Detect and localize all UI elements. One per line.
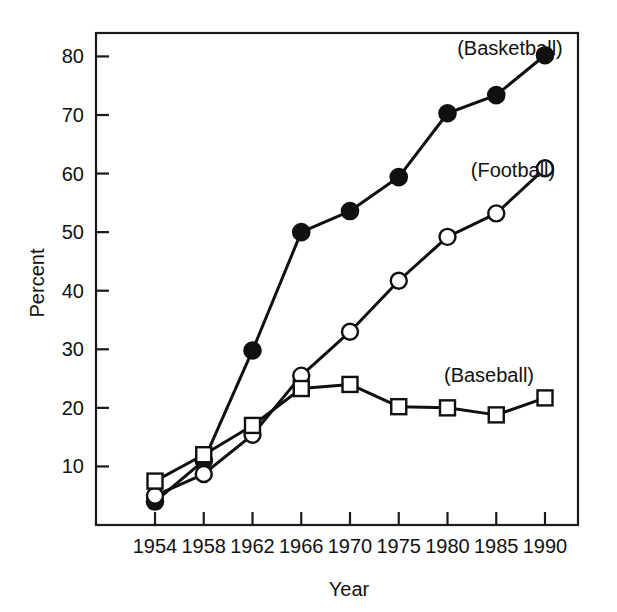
data-point-baseball-1990 [538, 390, 553, 405]
data-point-football-1985 [488, 205, 504, 221]
chart-figure: 1020304050607080 19541958196219661970197… [0, 0, 617, 612]
data-point-football-1970 [342, 324, 358, 340]
data-point-baseball-1985 [489, 407, 504, 422]
line-chart-svg: 1020304050607080 19541958196219661970197… [0, 0, 617, 612]
y-tick-label-80: 80 [62, 45, 84, 67]
x-axis-ticks [155, 512, 545, 525]
x-tick-label-1980: 1980 [425, 535, 470, 557]
x-tick-label-1966: 1966 [279, 535, 324, 557]
series-annotation-basketball: (Basketball) [457, 37, 563, 59]
y-tick-label-10: 10 [62, 455, 84, 477]
data-point-football-1980 [440, 229, 456, 245]
x-tick-label-1990: 1990 [523, 535, 568, 557]
x-tick-label-1958: 1958 [182, 535, 227, 557]
data-point-basketball-1975 [390, 169, 407, 186]
data-point-baseball-1954 [148, 474, 163, 489]
y-axis-tick-labels: 1020304050607080 [62, 45, 84, 477]
series-lines-group [155, 55, 545, 501]
data-point-football-1958 [196, 466, 212, 482]
y-tick-label-30: 30 [62, 338, 84, 360]
y-axis-ticks [96, 56, 109, 466]
plot-frame [96, 33, 578, 525]
series-line-basketball [155, 55, 545, 501]
data-point-football-1954 [147, 488, 163, 504]
x-tick-label-1962: 1962 [230, 535, 275, 557]
x-tick-label-1954: 1954 [133, 535, 178, 557]
data-point-baseball-1970 [343, 377, 358, 392]
x-axis-tick-labels: 195419581962196619701975198019851990 [133, 535, 568, 557]
x-axis-title: Year [329, 578, 370, 600]
data-point-baseball-1958 [196, 447, 211, 462]
data-point-basketball-1966 [293, 224, 310, 241]
x-tick-label-1985: 1985 [474, 535, 519, 557]
series-annotation-baseball: (Baseball) [444, 364, 534, 386]
x-tick-label-1970: 1970 [328, 535, 373, 557]
data-point-baseball-1975 [391, 399, 406, 414]
data-point-baseball-1966 [294, 381, 309, 396]
y-tick-label-70: 70 [62, 104, 84, 126]
y-tick-label-20: 20 [62, 397, 84, 419]
data-point-basketball-1985 [488, 87, 505, 104]
series-markers-group [147, 47, 554, 510]
data-point-basketball-1980 [439, 105, 456, 122]
series-annotation-football: (Football) [471, 159, 555, 181]
data-point-baseball-1962 [245, 418, 260, 433]
data-point-baseball-1980 [440, 400, 455, 415]
y-axis-title: Percent [26, 248, 48, 317]
data-point-football-1975 [391, 273, 407, 289]
y-tick-label-60: 60 [62, 163, 84, 185]
data-point-basketball-1962 [244, 342, 261, 359]
data-point-basketball-1970 [342, 203, 359, 220]
x-tick-label-1975: 1975 [377, 535, 422, 557]
y-tick-label-50: 50 [62, 221, 84, 243]
y-tick-label-40: 40 [62, 280, 84, 302]
